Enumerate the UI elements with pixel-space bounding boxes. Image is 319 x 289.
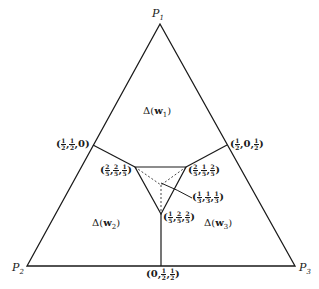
- region-w1-label: Δ(w1): [143, 106, 171, 119]
- dashed-left: [135, 167, 161, 185]
- point-center-label: (13,13,13): [192, 191, 224, 204]
- point-inner-bottom-label: (15,25,25): [163, 211, 195, 224]
- point-mid13-label: (12,0,12): [230, 138, 264, 151]
- vertex-p3-label: P3: [299, 262, 311, 276]
- point-inner-left-label: (25,25,15): [100, 164, 132, 177]
- dashed-right: [161, 167, 186, 185]
- simplex-diagram: [0, 0, 319, 289]
- region-w2-label: Δ(w2): [92, 218, 120, 231]
- point-mid23-label: (0,12,12): [146, 268, 180, 281]
- region-w3-label: Δ(w3): [204, 218, 232, 231]
- point-inner-right-label: (25,15,25): [188, 164, 220, 177]
- vertex-p1-label: P1: [152, 8, 164, 22]
- point-mid12-label: (12,12,0): [56, 138, 90, 151]
- vertex-p2-label: P2: [12, 262, 24, 276]
